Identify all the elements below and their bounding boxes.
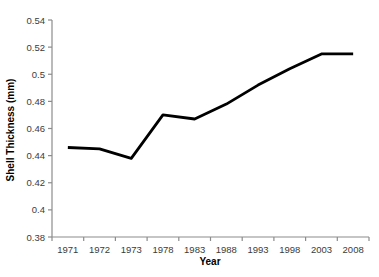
y-axis: 0.540.520.50.480.460.440.420.40.38 — [27, 15, 53, 243]
x-tick-label: 1993 — [247, 244, 268, 255]
x-tick-label: 2003 — [311, 244, 332, 255]
x-tick-label: 2008 — [343, 244, 364, 255]
y-tick-label: 0.52 — [27, 42, 46, 53]
x-axis: 1971197219731978198319881993199820032008 — [52, 237, 369, 255]
shell-thickness-chart: 0.540.520.50.480.460.440.420.40.38 19711… — [0, 0, 379, 277]
y-axis-title: Shell Thickness (mm) — [5, 79, 16, 182]
x-tick-label: 1998 — [279, 244, 300, 255]
x-tick-label: 1973 — [121, 244, 142, 255]
y-tick-label: 0.54 — [27, 15, 46, 26]
x-tick-label: 1988 — [216, 244, 237, 255]
x-tick-label: 1971 — [57, 244, 78, 255]
y-tick-label: 0.4 — [32, 204, 45, 215]
x-tick-label: 1978 — [152, 244, 173, 255]
y-tick-label: 0.42 — [27, 177, 46, 188]
y-tick-label: 0.48 — [27, 96, 46, 107]
series-line-shell-thickness — [68, 54, 353, 158]
x-tick-label: 1972 — [89, 244, 110, 255]
y-tick-label: 0.38 — [27, 232, 46, 243]
line-chart-figure: 0.540.520.50.480.460.440.420.40.38 19711… — [0, 0, 379, 277]
y-tick-label: 0.5 — [32, 69, 45, 80]
y-tick-label: 0.44 — [27, 150, 46, 161]
y-tick-label: 0.46 — [27, 123, 46, 134]
chart-series — [68, 54, 353, 158]
x-axis-title: Year — [199, 256, 220, 267]
x-tick-label: 1983 — [184, 244, 205, 255]
